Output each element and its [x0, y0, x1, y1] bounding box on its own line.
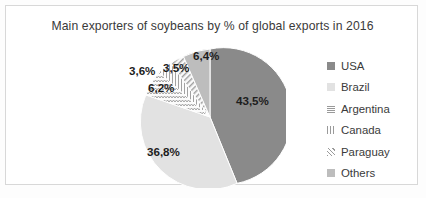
legend-label-brazil: Brazil	[341, 81, 369, 93]
legend-item-others[interactable]: Others	[327, 163, 413, 185]
data-label-argentina: 6,2%	[148, 81, 174, 94]
pie-chart-plot	[136, 43, 286, 188]
legend-swatch-argentina-icon	[327, 105, 335, 113]
legend-swatch-others-icon	[327, 169, 335, 177]
chart-screenshot: Main exporters of soybeans by % of globa…	[0, 0, 426, 198]
legend-swatch-canada-icon	[327, 126, 335, 134]
data-label-canada: 3,6%	[129, 64, 155, 77]
legend-swatch-usa-icon	[327, 62, 335, 70]
pie-svg	[136, 43, 286, 188]
legend-label-argentina: Argentina	[341, 103, 390, 115]
legend-item-argentina[interactable]: Argentina	[327, 98, 413, 120]
legend-swatch-brazil-icon	[327, 83, 335, 91]
chart-legend: USA Brazil Argentina Canada Paraguay Oth…	[327, 55, 413, 184]
legend-label-canada: Canada	[341, 124, 381, 136]
chart-title: Main exporters of soybeans by % of globa…	[6, 19, 419, 33]
legend-label-paraguay: Paraguay	[341, 146, 390, 158]
legend-swatch-paraguay-icon	[327, 148, 335, 156]
legend-label-usa: USA	[341, 60, 364, 72]
data-label-paraguay: 3,5%	[163, 61, 189, 74]
legend-item-paraguay[interactable]: Paraguay	[327, 141, 413, 163]
legend-item-canada[interactable]: Canada	[327, 120, 413, 142]
legend-label-others: Others	[341, 167, 375, 179]
data-label-others: 6,4%	[193, 49, 219, 62]
legend-item-usa[interactable]: USA	[327, 55, 413, 77]
data-label-brazil: 36,8%	[147, 145, 180, 158]
data-label-usa: 43,5%	[236, 94, 269, 107]
legend-item-brazil[interactable]: Brazil	[327, 77, 413, 99]
